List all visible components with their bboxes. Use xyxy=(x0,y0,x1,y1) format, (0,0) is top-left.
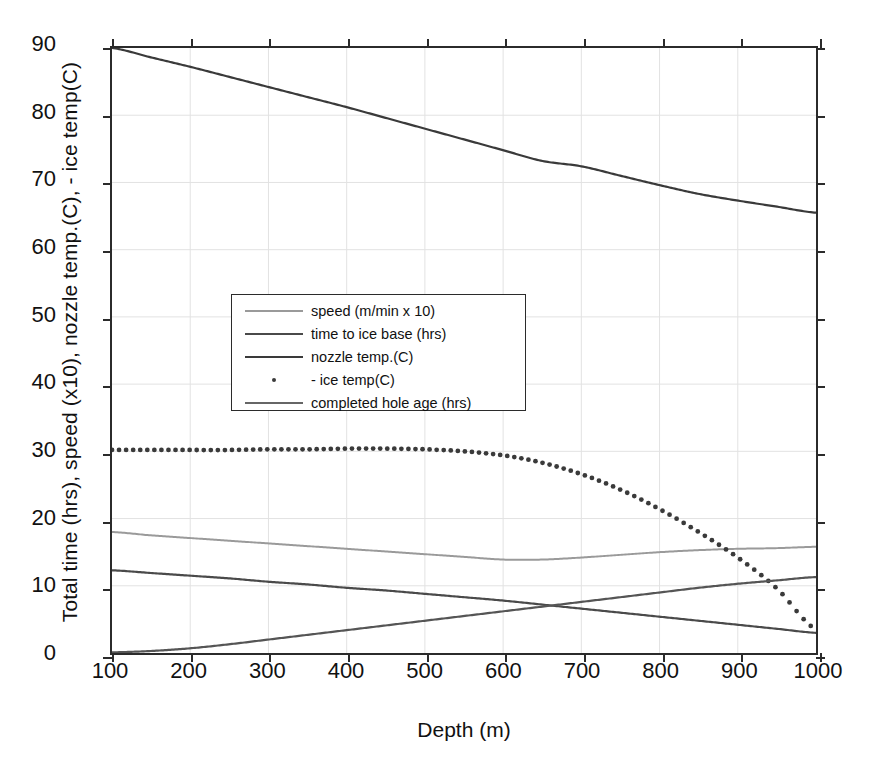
series-3-dots xyxy=(112,446,813,628)
series-line-4 xyxy=(112,577,816,652)
legend-label: speed (m/min x 10) xyxy=(311,303,435,319)
y-tick-right xyxy=(816,319,825,321)
y-tick xyxy=(103,319,112,321)
x-tick-label: 1000 xyxy=(773,660,863,682)
y-tick-right xyxy=(816,386,825,388)
legend-label: completed hole age (hrs) xyxy=(311,395,471,411)
y-tick xyxy=(103,589,112,591)
x-tick-top xyxy=(505,39,507,48)
x-tick-label: 800 xyxy=(616,660,706,682)
y-tick-label: 50 xyxy=(0,304,56,326)
legend-swatch-icon xyxy=(241,333,307,335)
legend-swatch-icon xyxy=(241,378,307,382)
legend-item[interactable]: completed hole age (hrs) xyxy=(232,392,525,414)
chart-figure: Total time (hrs), speed (x10), nozzle te… xyxy=(0,0,880,769)
legend-label: - ice temp(C) xyxy=(311,372,395,388)
x-tick-top xyxy=(584,39,586,48)
y-tick-right xyxy=(816,116,825,118)
legend-label: nozzle temp.(C) xyxy=(311,349,413,365)
y-tick-right xyxy=(816,183,825,185)
y-tick-label: 10 xyxy=(0,574,56,596)
y-tick-right xyxy=(816,589,825,591)
y-tick xyxy=(103,116,112,118)
x-tick-top xyxy=(663,39,665,48)
legend-swatch-icon xyxy=(241,402,307,404)
x-tick-label: 900 xyxy=(694,660,784,682)
y-tick-label: 40 xyxy=(0,371,56,393)
series-line-2 xyxy=(112,48,816,213)
x-axis-label: Depth (m) xyxy=(110,718,818,742)
x-tick-label: 100 xyxy=(65,660,155,682)
x-tick-label: 600 xyxy=(458,660,548,682)
y-axis-label: Total time (hrs), speed (x10), nozzle te… xyxy=(58,22,82,662)
legend-label: time to ice base (hrs) xyxy=(311,326,446,342)
legend-item[interactable]: - ice temp(C) xyxy=(232,369,525,391)
y-tick-label: 30 xyxy=(0,439,56,461)
y-tick-label: 80 xyxy=(0,101,56,123)
y-tick xyxy=(103,48,112,50)
x-tick-top xyxy=(741,39,743,48)
x-tick-top xyxy=(427,39,429,48)
legend-item[interactable]: time to ice base (hrs) xyxy=(232,323,525,345)
y-tick-label: 90 xyxy=(0,33,56,55)
x-tick-top xyxy=(191,39,193,48)
y-tick xyxy=(103,454,112,456)
y-tick-right xyxy=(816,454,825,456)
y-tick-right xyxy=(816,522,825,524)
series-line-1 xyxy=(112,570,816,633)
x-tick-label: 700 xyxy=(537,660,627,682)
legend-swatch-icon xyxy=(241,356,307,358)
x-tick-label: 300 xyxy=(222,660,312,682)
y-tick-label: 0 xyxy=(0,642,56,664)
legend-item[interactable]: nozzle temp.(C) xyxy=(232,346,525,368)
x-tick-top xyxy=(112,39,114,48)
plot-area: speed (m/min x 10)time to ice base (hrs)… xyxy=(110,46,818,655)
y-tick xyxy=(103,183,112,185)
x-tick-label: 200 xyxy=(144,660,234,682)
y-tick-right xyxy=(816,48,825,50)
x-tick-top xyxy=(820,39,822,48)
y-tick-label: 60 xyxy=(0,236,56,258)
y-tick xyxy=(103,386,112,388)
y-tick xyxy=(103,251,112,253)
chart-legend: speed (m/min x 10)time to ice base (hrs)… xyxy=(231,294,526,411)
y-tick-right xyxy=(816,251,825,253)
legend-swatch-icon xyxy=(241,310,307,312)
x-tick-label: 500 xyxy=(380,660,470,682)
x-tick-top xyxy=(348,39,350,48)
legend-item[interactable]: speed (m/min x 10) xyxy=(232,300,525,322)
x-tick-label: 400 xyxy=(301,660,391,682)
x-tick-top xyxy=(269,39,271,48)
y-tick-label: 20 xyxy=(0,507,56,529)
y-tick-label: 70 xyxy=(0,168,56,190)
y-tick xyxy=(103,522,112,524)
series-line-0 xyxy=(112,532,816,560)
